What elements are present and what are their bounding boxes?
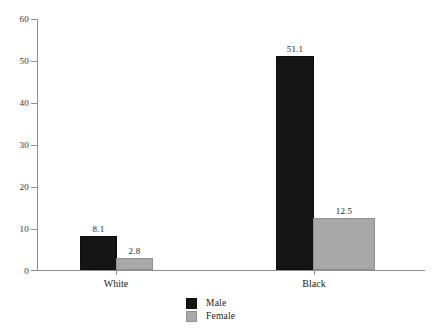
bar-chart: 60 50 40 30 20 10 0 8.1 2.8 51.1 12.5 Wh… [0, 0, 434, 335]
bar-value-black-female: 12.5 [313, 207, 375, 216]
y-tick-label-40: 40 [3, 99, 29, 108]
legend-swatch-male-icon [186, 298, 197, 309]
plot-area: 8.1 2.8 51.1 12.5 [37, 19, 425, 270]
y-axis: 60 50 40 30 20 10 0 [0, 0, 29, 335]
bar-black-female[interactable] [313, 218, 375, 270]
legend: Male Female [186, 297, 296, 323]
bar-value-white-female: 2.8 [116, 247, 153, 256]
bar-value-black-male: 51.1 [276, 45, 314, 54]
legend-label-female: Female [206, 311, 235, 322]
x-axis-line [37, 270, 425, 271]
x-tick-mark-black [314, 271, 315, 275]
bar-black-male[interactable] [276, 56, 314, 270]
x-tick-mark-white [116, 271, 117, 275]
legend-item-female[interactable]: Female [186, 310, 296, 323]
x-axis-label-white: White [104, 278, 128, 289]
y-tick-label-0: 0 [3, 267, 29, 276]
y-tick-label-20: 20 [3, 183, 29, 192]
y-tick-label-60: 60 [3, 15, 29, 24]
y-tick-label-50: 50 [3, 57, 29, 66]
legend-swatch-female-icon [186, 311, 197, 322]
bar-white-female[interactable] [116, 258, 153, 270]
legend-label-male: Male [206, 298, 226, 309]
x-axis-label-black: Black [302, 278, 325, 289]
legend-item-male[interactable]: Male [186, 297, 296, 310]
bar-white-male[interactable] [80, 236, 117, 270]
bar-value-white-male: 8.1 [80, 225, 117, 234]
y-tick-label-10: 10 [3, 225, 29, 234]
y-tick-label-30: 30 [3, 141, 29, 150]
